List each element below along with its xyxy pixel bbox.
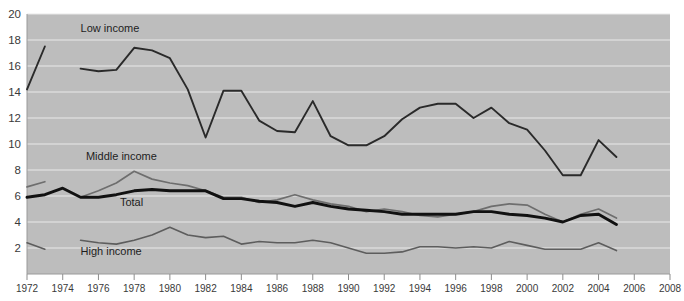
y-axis-tick-label-8: 8 (15, 164, 21, 176)
y-axis: 2468101214161820 (8, 8, 27, 274)
x-axis-tick-label-1978: 1978 (123, 283, 146, 294)
y-axis-tick-label-14: 14 (8, 86, 21, 98)
x-axis-tick-label-1972: 1972 (16, 283, 39, 294)
x-axis-tick-label-1992: 1992 (373, 283, 396, 294)
x-axis-tick-label-1976: 1976 (87, 283, 110, 294)
y-axis-tick-label-6: 6 (15, 190, 21, 202)
x-axis-tick-label-2002: 2002 (552, 283, 575, 294)
series-label-low-income: Low income (81, 22, 140, 34)
x-axis-tick-label-1998: 1998 (480, 283, 503, 294)
y-axis-tick-label-2: 2 (15, 242, 21, 254)
x-axis: 1972197419761978198019821984198619881990… (16, 274, 682, 294)
series-label-total: Total (120, 196, 143, 208)
x-axis-tick-label-1984: 1984 (230, 283, 253, 294)
series-label-high-income: High income (81, 245, 142, 257)
x-axis-tick-label-1982: 1982 (194, 283, 217, 294)
x-axis-tick-label-1974: 1974 (52, 283, 75, 294)
y-axis-tick-label-4: 4 (15, 216, 22, 228)
x-axis-tick-label-1996: 1996 (445, 283, 468, 294)
y-axis-tick-label-12: 12 (8, 112, 21, 124)
x-axis-tick-label-1980: 1980 (159, 283, 182, 294)
x-axis-tick-label-2008: 2008 (659, 283, 682, 294)
y-axis-tick-label-20: 20 (8, 8, 21, 20)
y-axis-tick-label-18: 18 (8, 34, 21, 46)
x-axis-tick-label-2004: 2004 (587, 283, 610, 294)
x-axis-tick-label-2000: 2000 (516, 283, 539, 294)
x-axis-tick-label-1990: 1990 (337, 283, 360, 294)
x-axis-tick-label-1988: 1988 (302, 283, 325, 294)
line-chart: 2468101214161820 19721974197619781980198… (0, 0, 684, 301)
y-axis-tick-label-10: 10 (8, 138, 21, 150)
chart-container: 2468101214161820 19721974197619781980198… (0, 0, 684, 301)
y-axis-tick-label-16: 16 (8, 60, 21, 72)
x-axis-tick-label-2006: 2006 (623, 283, 646, 294)
series-label-middle-income: Middle income (86, 150, 157, 162)
x-axis-tick-label-1994: 1994 (409, 283, 432, 294)
x-axis-tick-label-1986: 1986 (266, 283, 289, 294)
